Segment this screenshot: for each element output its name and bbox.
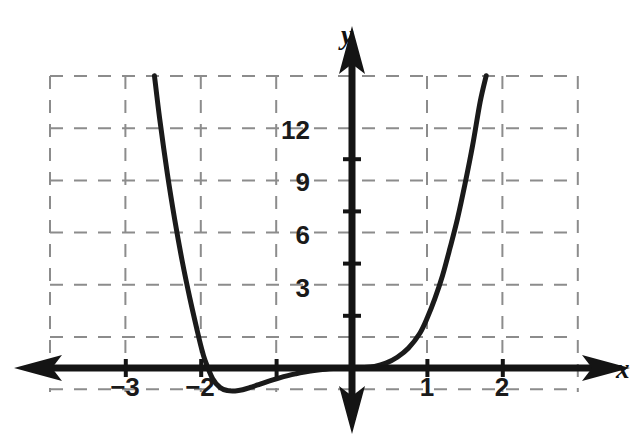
x-tick-label-minus3: −3 (96, 374, 154, 400)
x-tick-label-minus2: −2 (171, 374, 229, 400)
x-tick-label-1: 1 (398, 374, 456, 400)
y-tick-label-6: 6 (262, 222, 310, 248)
axes-layer (0, 0, 644, 434)
graph-figure: 12 9 6 3 −3 −2 1 2 y x (0, 0, 644, 434)
y-axis-label: y (341, 22, 353, 49)
y-tick-label-12: 12 (262, 117, 310, 143)
x-tick-label-2: 2 (473, 374, 531, 400)
y-tick-label-3: 3 (262, 275, 310, 301)
x-axis-label: x (616, 356, 630, 383)
y-tick-label-9: 9 (262, 169, 310, 195)
